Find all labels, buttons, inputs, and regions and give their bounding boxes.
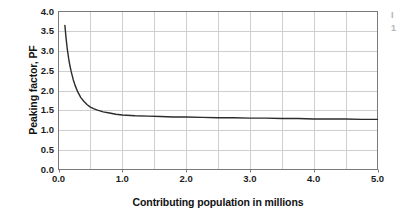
x-axis-tick-labels: 0.01.02.03.04.05.0	[0, 0, 403, 216]
x-axis-title: Contributing population in millions	[58, 196, 378, 208]
bleed-text-line-1: I	[391, 9, 403, 22]
x-axis-tick-label: 0.0	[39, 174, 79, 184]
page-edge-bleed-text: I 1	[391, 9, 403, 43]
x-axis-tick-label: 5.0	[358, 174, 398, 184]
x-axis-tick-label: 2.0	[166, 174, 206, 184]
x-axis-tick-label: 3.0	[230, 174, 270, 184]
bleed-text-line-2: 1	[391, 22, 403, 35]
chart-figure: Peaking factor, PF 0.00.51.01.52.02.53.0…	[0, 0, 403, 216]
x-axis-tick-label: 4.0	[294, 174, 334, 184]
x-axis-tick-label: 1.0	[102, 174, 142, 184]
